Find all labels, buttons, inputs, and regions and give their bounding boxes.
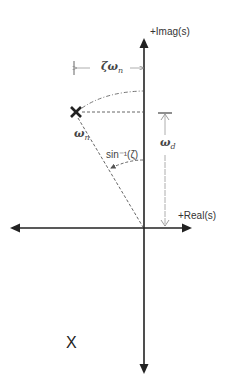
omega-n-label: ωn bbox=[74, 127, 90, 140]
angle-label: sin⁻¹(ζ) bbox=[106, 149, 138, 160]
angle-arc bbox=[111, 160, 143, 168]
zeta-omega-n-label: ζωn bbox=[101, 60, 123, 73]
lower-pole-marker: X bbox=[66, 334, 77, 352]
omega-d-label: ωd bbox=[160, 136, 176, 149]
upper-pole-cross-icon bbox=[71, 107, 81, 117]
imag-axis-label: +Imag(s) bbox=[150, 26, 190, 37]
real-axis-label: +Real(s) bbox=[178, 210, 216, 221]
s-plane-canvas bbox=[0, 0, 239, 390]
omega-n-arc bbox=[82, 91, 143, 108]
omega-d-dimension bbox=[158, 113, 172, 226]
imag-axis bbox=[140, 38, 149, 374]
